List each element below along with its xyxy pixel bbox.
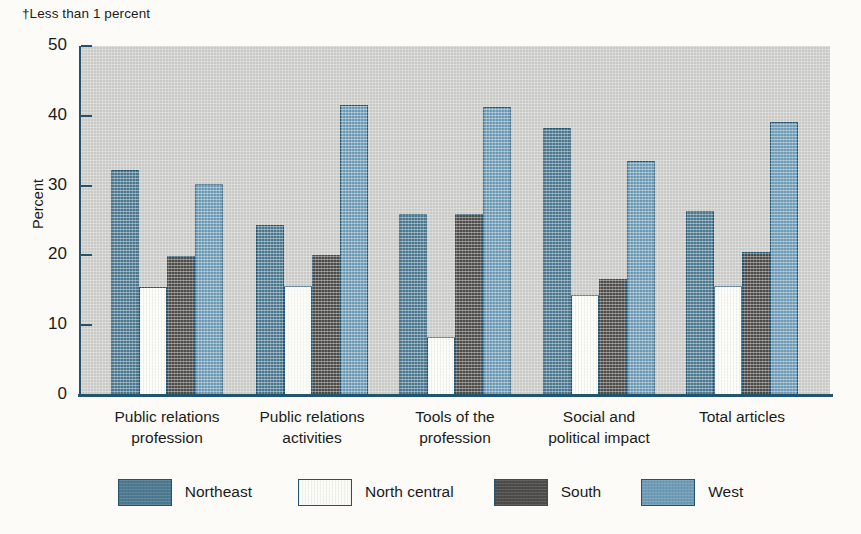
y-tick-mark	[81, 324, 92, 326]
bar	[599, 279, 627, 395]
legend-item[interactable]: Northeast	[118, 479, 252, 506]
legend-item[interactable]: West	[641, 479, 743, 506]
bar	[312, 255, 340, 395]
legend-label: West	[708, 483, 743, 501]
bar	[455, 214, 483, 395]
bar	[256, 225, 284, 395]
y-tick-mark	[81, 45, 92, 47]
bar	[742, 252, 770, 395]
y-axis-title: Percent	[30, 144, 46, 264]
bar	[195, 184, 223, 395]
y-tick-mark	[81, 115, 92, 117]
bar	[483, 107, 511, 395]
legend-item[interactable]: North central	[298, 479, 454, 506]
bar	[167, 256, 195, 395]
bar	[111, 170, 139, 395]
footnote-text: †Less than 1 percent	[22, 6, 150, 21]
bar	[543, 128, 571, 395]
y-tick-mark	[81, 254, 92, 256]
legend-label: Northeast	[185, 483, 252, 501]
y-tick-label: 0	[25, 384, 67, 404]
y-tick-label: 50	[25, 35, 67, 55]
bar	[340, 105, 368, 395]
y-tick-mark	[81, 185, 92, 187]
x-axis-label-line: political impact	[509, 427, 689, 448]
bar	[284, 286, 312, 395]
bar	[571, 295, 599, 395]
chart-legend: NortheastNorth centralSouthWest	[0, 472, 861, 512]
y-tick-label: 40	[25, 105, 67, 125]
x-axis-label: Total articles	[652, 406, 832, 427]
plot-area	[81, 46, 830, 395]
legend-swatch	[494, 479, 548, 506]
x-axis-label-line: Total articles	[652, 406, 832, 427]
bar	[686, 211, 714, 395]
legend-label: North central	[365, 483, 454, 501]
bar	[427, 337, 455, 395]
chart-figure: †Less than 1 percent 01020304050 Percent…	[0, 0, 861, 470]
bar	[139, 287, 167, 395]
y-axis-line	[79, 46, 81, 395]
bar	[770, 122, 798, 395]
bar	[714, 286, 742, 395]
y-tick-label: 10	[25, 314, 67, 334]
x-axis-line	[78, 394, 833, 397]
legend-swatch	[298, 479, 352, 506]
bar	[627, 161, 655, 395]
bar	[399, 214, 427, 395]
legend-swatch	[641, 479, 695, 506]
legend-swatch	[118, 479, 172, 506]
legend-label: South	[561, 483, 602, 501]
legend-item[interactable]: South	[494, 479, 602, 506]
